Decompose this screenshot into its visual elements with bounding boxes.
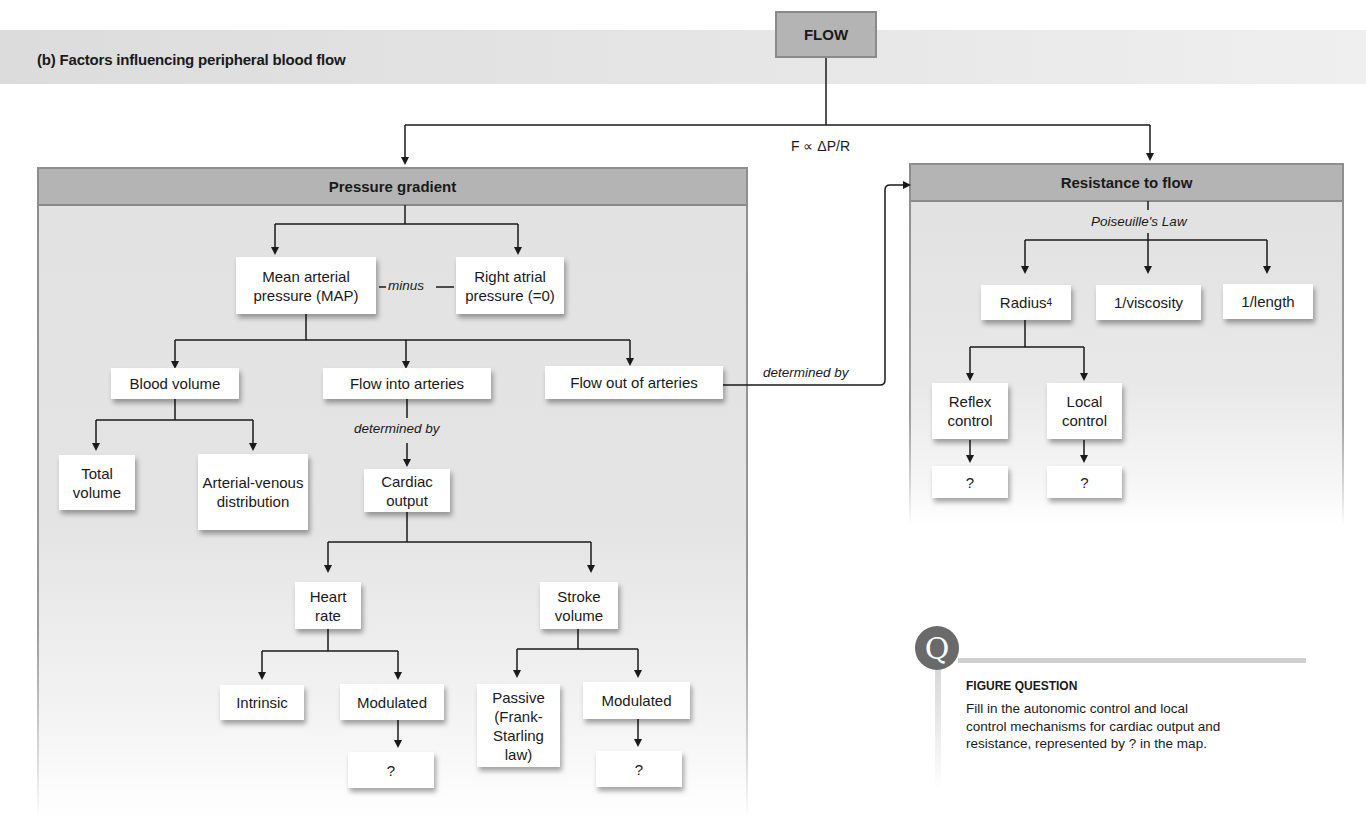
figure-question-sidebar [935, 670, 941, 790]
node-radius: Radius4 [981, 285, 1071, 320]
radius-label: Radius [1000, 293, 1047, 312]
node-sv-unknown: ? [596, 751, 682, 787]
node-heart-rate: Heart rate [295, 582, 361, 629]
node-local-unknown: ? [1047, 466, 1122, 498]
node-cardiac-output: Cardiac output [364, 469, 450, 512]
question-icon: Q [915, 626, 959, 670]
node-mean-arterial-pressure: Mean arterial pressure (MAP) [236, 257, 376, 314]
node-passive-frank-starling: Passive (Frank-Starling law) [477, 684, 560, 767]
node-stroke-volume: Stroke volume [540, 582, 618, 629]
node-reflex-control: Reflex control [932, 383, 1008, 439]
node-right-atrial-pressure: Right atrial pressure (=0) [456, 257, 564, 314]
node-arterial-venous-distribution: Arterial-venous distribution [198, 454, 308, 530]
figure-question-rule [958, 658, 1306, 663]
flow-root-node: FLOW [775, 11, 877, 58]
determined-by-label: determined by [354, 421, 440, 436]
node-total-volume: Total volume [59, 455, 135, 510]
node-flow-out-of-arteries: Flow out of arteries [545, 366, 723, 399]
node-hr-unknown: ? [348, 752, 434, 788]
node-flow-into-arteries: Flow into arteries [323, 368, 491, 399]
node-length: 1/length [1223, 284, 1313, 319]
node-blood-volume: Blood volume [111, 368, 239, 399]
poiseuille-law-label: Poiseuille's Law [1091, 214, 1187, 229]
connector-determined-by-label: determined by [763, 365, 849, 380]
figure-question-text: Fill in the autonomic control and local … [966, 700, 1226, 753]
minus-label: minus [388, 278, 424, 293]
node-hr-modulated: Modulated [340, 684, 444, 720]
figure-question-title: FIGURE QUESTION [966, 679, 1077, 693]
flow-formula: F ∝ ΔP/R [791, 138, 850, 154]
node-viscosity: 1/viscosity [1096, 285, 1201, 320]
node-intrinsic: Intrinsic [220, 685, 304, 720]
node-reflex-unknown: ? [932, 466, 1008, 498]
node-local-control: Local control [1047, 383, 1122, 439]
node-sv-modulated: Modulated [583, 682, 690, 719]
